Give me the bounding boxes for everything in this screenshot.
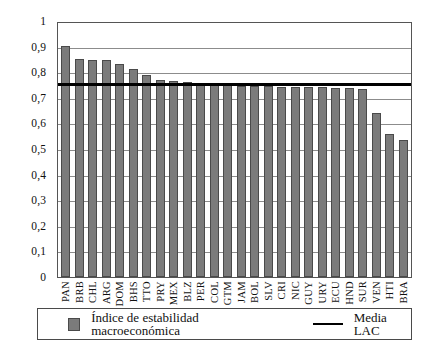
bar-slot — [248, 23, 262, 277]
bar-dom — [115, 64, 124, 277]
x-axis-tick-label: JAM — [236, 281, 247, 303]
bar-slot — [316, 23, 330, 277]
bar-hti — [385, 134, 394, 277]
bar-slot — [370, 23, 384, 277]
bar-pry — [156, 80, 165, 277]
x-axis-tick-label: CHL — [87, 281, 98, 303]
x-axis-tick-label: URY — [317, 281, 328, 304]
bar-slot — [302, 23, 316, 277]
bar-bol — [250, 86, 259, 277]
x-axis-tick-label: PAN — [60, 281, 71, 302]
bar-mex — [169, 81, 178, 277]
x-axis-tick-label: VEN — [371, 281, 382, 303]
y-axis-tick-label: 0,7 — [31, 93, 46, 105]
chart-figure: 00,10,20,30,40,50,60,70,80,91 PANBRBCHLA… — [0, 0, 437, 362]
bar-sur — [358, 89, 367, 277]
y-axis-tick-label: 0,5 — [31, 144, 46, 156]
x-axis-tick-label: HTI — [384, 281, 395, 299]
legend-item-mean: Media LAC — [313, 311, 411, 337]
bar-slot — [86, 23, 100, 277]
x-axis-tick-label: SUR — [357, 281, 368, 302]
x-axis-tick-label: ECU — [330, 281, 341, 303]
bar-slot — [140, 23, 154, 277]
y-axis-tick-label: 0,2 — [31, 221, 46, 233]
x-axis-tick-label: TTO — [141, 281, 152, 302]
bar-brb — [75, 59, 84, 277]
media-lac-line — [58, 83, 411, 86]
bar-slot — [275, 23, 289, 277]
bar-slot — [343, 23, 357, 277]
bar-per — [196, 83, 205, 277]
bar-slot — [356, 23, 370, 277]
x-axis-tick-label: ARG — [101, 281, 112, 304]
x-axis-tick-label: DOM — [114, 281, 125, 306]
x-axis-tick-label: HND — [344, 281, 355, 305]
bar-ecu — [331, 88, 340, 277]
bar-cri — [277, 87, 286, 278]
bar-jam — [237, 86, 246, 277]
bar-gtm — [223, 85, 232, 277]
bar-bra — [399, 140, 408, 277]
y-axis-tick-label: 0,6 — [31, 119, 46, 131]
x-axis-tick-label: BLZ — [182, 281, 193, 302]
bar-slot — [73, 23, 87, 277]
x-axis-tick-label: MEX — [168, 281, 179, 305]
bar-slot — [235, 23, 249, 277]
x-axis-tick-label: BOL — [249, 281, 260, 303]
bar-slot — [221, 23, 235, 277]
bar-slot — [397, 23, 411, 277]
bar-slv — [264, 86, 273, 277]
x-axis-tick-label: GUY — [303, 281, 314, 305]
bar-slot — [194, 23, 208, 277]
bar-hnd — [345, 88, 354, 277]
bar-tto — [142, 75, 151, 277]
bar-pan — [61, 46, 70, 277]
x-axis-tick-label: GTM — [222, 281, 233, 305]
x-axis-tick-label: BRB — [74, 281, 85, 303]
bar-col — [210, 84, 219, 277]
bar-slot — [113, 23, 127, 277]
x-axis-tick-label: NIC — [290, 281, 301, 300]
y-axis-tick-label: 1 — [40, 16, 46, 28]
bar-slot — [59, 23, 73, 277]
x-axis-tick-label: PER — [195, 281, 206, 301]
y-axis-tick-label: 0,4 — [31, 170, 46, 182]
y-axis-tick-label: 0 — [40, 272, 46, 284]
bar-guy — [304, 87, 313, 277]
y-axis: 00,10,20,30,40,50,60,70,80,91 — [0, 22, 52, 278]
y-axis-tick-label: 0,3 — [31, 195, 46, 207]
bar-nic — [291, 87, 300, 277]
y-axis-tick-label: 0,8 — [31, 67, 46, 79]
mean-line-swatch-icon — [313, 323, 342, 326]
bar-slot — [383, 23, 397, 277]
x-axis-tick-label: BHS — [128, 281, 139, 302]
bar-slot — [329, 23, 343, 277]
bar-slot — [208, 23, 222, 277]
x-axis-tick-label: BRA — [398, 281, 409, 304]
bar-series — [58, 23, 411, 277]
bar-chl — [88, 60, 97, 277]
bar-slot — [181, 23, 195, 277]
bar-bhs — [129, 69, 138, 277]
bar-ven — [372, 113, 381, 277]
bar-slot — [127, 23, 141, 277]
bar-blz — [183, 82, 192, 277]
bar-ury — [318, 87, 327, 277]
bar-slot — [262, 23, 276, 277]
bar-arg — [102, 60, 111, 277]
legend-series-label: Índice de estabilidad macroeconómica — [91, 311, 275, 337]
bar-slot — [154, 23, 168, 277]
x-axis-tick-label: PRY — [155, 281, 166, 302]
legend-mean-label: Media LAC — [354, 311, 411, 337]
y-axis-tick-label: 0,1 — [31, 247, 46, 259]
x-axis-tick-label: SLV — [263, 281, 274, 301]
y-axis-tick-label: 0,9 — [31, 42, 46, 54]
chart-legend: Índice de estabilidad macroeconómica Med… — [37, 308, 412, 340]
bar-slot — [100, 23, 114, 277]
legend-item-series: Índice de estabilidad macroeconómica — [68, 311, 275, 337]
bar-slot — [167, 23, 181, 277]
x-axis-tick-label: COL — [209, 281, 220, 303]
bar-slot — [289, 23, 303, 277]
x-axis-tick-label: CRI — [276, 281, 287, 299]
bar-swatch-icon — [68, 318, 80, 331]
